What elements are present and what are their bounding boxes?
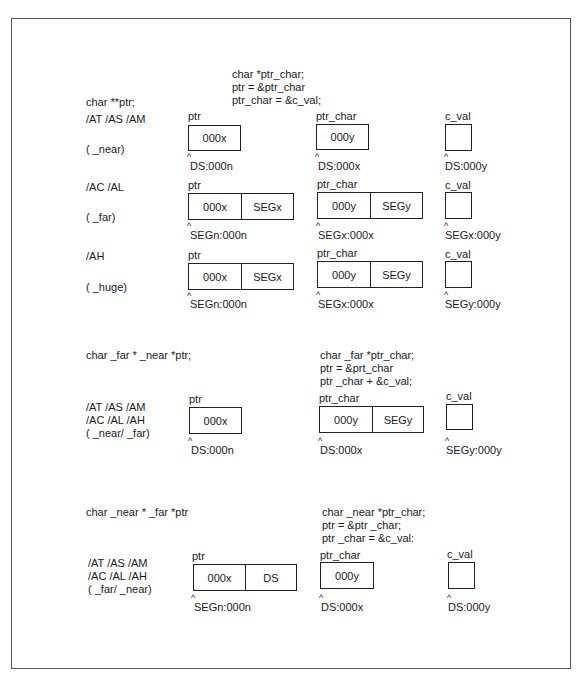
declaration: char **ptr; — [86, 96, 135, 109]
ptr-char-label: ptr_char — [320, 549, 360, 562]
ptr-char-label: ptr_char — [319, 392, 359, 405]
compiler-options: /AH — [86, 250, 104, 263]
ptr-label: ptr — [188, 179, 201, 192]
ptr-address: SEGn:000n — [190, 229, 247, 242]
code-line: ptr _char + &c_val; — [320, 375, 412, 388]
memory-model: ( _far/ _near) — [88, 583, 152, 596]
ptr-box: 000x SEGx — [188, 193, 294, 220]
ptr-char-address: DS:000x — [318, 160, 360, 173]
ptr-char-label: ptr_char — [316, 110, 356, 123]
ptr-address: SEGn:000n — [190, 298, 247, 311]
ptr-char-box: 000y SEGy — [319, 406, 424, 433]
memory-model: ( _near) — [86, 143, 125, 156]
ptr-segment-cell: SEGx — [241, 264, 293, 289]
ptr-box: 000x — [188, 125, 241, 151]
ptr-char-address: DS:000x — [320, 444, 362, 457]
ptr-char-offset-cell: 000y — [320, 407, 372, 432]
code-line: ptr = &ptr_char — [232, 81, 305, 94]
c-val-box — [446, 404, 473, 430]
ptr-char-offset-cell: 000y — [318, 262, 370, 287]
ptr-offset-cell: 000x — [190, 408, 241, 433]
memory-model: ( _near/ _far) — [86, 427, 150, 440]
ptr-char-segment-cell: SEGy — [372, 407, 423, 432]
c-val-box — [445, 261, 472, 288]
code-line: char *ptr_char; — [232, 68, 304, 81]
c-val-address: DS:000y — [445, 160, 487, 173]
ptr-label: ptr — [189, 393, 202, 406]
ptr-char-offset-cell: 000y — [321, 563, 373, 588]
compiler-options: /AC /AL /AH — [86, 414, 145, 427]
ptr-address: DS:000n — [191, 444, 234, 457]
code-line: ptr _char = &c_val: — [322, 532, 414, 545]
c-val-box — [445, 192, 472, 219]
c-val-label: c_val — [446, 390, 472, 403]
c-val-box — [448, 562, 475, 589]
ptr-segment-cell: SEGx — [241, 194, 293, 219]
compiler-options: /AT /AS /AM — [86, 401, 146, 414]
ptr-label: ptr — [192, 550, 205, 563]
ptr-char-label: ptr_char — [317, 178, 357, 191]
ptr-segment-cell: DS — [245, 565, 296, 590]
ptr-offset-cell: 000x — [189, 126, 240, 150]
ptr-char-address: SEGx:000x — [318, 298, 374, 311]
ptr-char-box: 000y — [316, 124, 369, 150]
memory-model: ( _huge) — [86, 281, 127, 294]
c-val-label: c_val — [447, 548, 473, 561]
c-val-label: c_val — [445, 110, 471, 123]
compiler-options: /AT /AS /AM — [86, 113, 146, 126]
code-line: char _far *ptr_char; — [320, 349, 414, 362]
ptr-address: SEGn:000n — [194, 601, 251, 614]
code-line: ptr_char = &c_val; — [232, 94, 321, 107]
code-line: ptr = &prt_char — [320, 362, 393, 375]
c-val-address: SEGy:000y — [446, 444, 502, 457]
ptr-char-segment-cell: SEGy — [370, 193, 422, 218]
compiler-options: /AC /AL — [86, 181, 124, 194]
ptr-char-label: ptr_char — [317, 247, 357, 260]
c-val-label: c_val — [445, 248, 471, 261]
memory-model: ( _far) — [86, 211, 115, 224]
ptr-label: ptr — [188, 249, 201, 262]
declaration: char _near * _far *ptr — [86, 506, 188, 519]
ptr-char-segment-cell: SEGy — [370, 262, 422, 287]
ptr-char-address: DS:000x — [321, 601, 363, 614]
ptr-char-box: 000y — [320, 562, 374, 589]
ptr-box: 000x DS — [193, 564, 297, 591]
ptr-offset-cell: 000x — [189, 194, 241, 219]
ptr-address: DS:000n — [190, 160, 233, 173]
c-val-address: SEGy:000y — [445, 298, 501, 311]
ptr-box: 000x SEGx — [188, 263, 294, 290]
compiler-options: /AT /AS /AM — [88, 557, 148, 570]
ptr-char-box: 000y SEGy — [317, 261, 423, 288]
ptr-char-offset-cell: 000y — [317, 125, 368, 149]
ptr-char-offset-cell: 000y — [318, 193, 370, 218]
code-line: ptr = &ptr _char; — [322, 519, 401, 532]
code-line: char _near *ptr_char; — [322, 506, 425, 519]
ptr-offset-cell: 000x — [189, 264, 241, 289]
c-val-label: c_val — [445, 179, 471, 192]
declaration: char _far * _near *ptr; — [86, 349, 191, 362]
c-val-address: DS:000y — [448, 601, 490, 614]
ptr-label: ptr — [188, 110, 201, 123]
ptr-offset-cell: 000x — [194, 565, 245, 590]
ptr-char-address: SEGx:000x — [318, 229, 374, 242]
c-val-box — [445, 124, 472, 151]
c-val-address: SEGx:000y — [445, 229, 501, 242]
ptr-box: 000x — [189, 407, 242, 434]
ptr-char-box: 000y SEGy — [317, 192, 423, 219]
compiler-options: /AC /AL /AH — [88, 570, 147, 583]
